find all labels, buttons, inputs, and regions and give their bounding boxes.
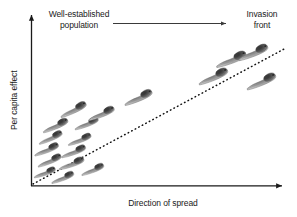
organism-marker — [37, 129, 63, 144]
organism-marker — [58, 100, 88, 118]
organism-marker — [33, 166, 57, 178]
label-well-established-population: Well-established population — [36, 9, 122, 30]
figure-container: Well-established population Invasion fro… — [0, 0, 297, 217]
organism-marker — [60, 143, 87, 158]
organism-marker — [197, 66, 230, 85]
x-axis-label: Direction of spread — [88, 198, 238, 209]
label-invasion-front: Invasion front — [232, 9, 292, 30]
organism-marker — [80, 162, 105, 176]
y-axis-label: Per capita effect — [9, 50, 20, 150]
organism-marker — [33, 141, 60, 156]
organism-marker — [41, 116, 69, 133]
organism-marker — [87, 104, 116, 120]
organism-marker — [122, 87, 153, 105]
organism-marker — [67, 132, 93, 146]
figure-canvas — [0, 0, 297, 217]
organism-group — [33, 42, 278, 184]
organism-marker — [245, 71, 278, 90]
